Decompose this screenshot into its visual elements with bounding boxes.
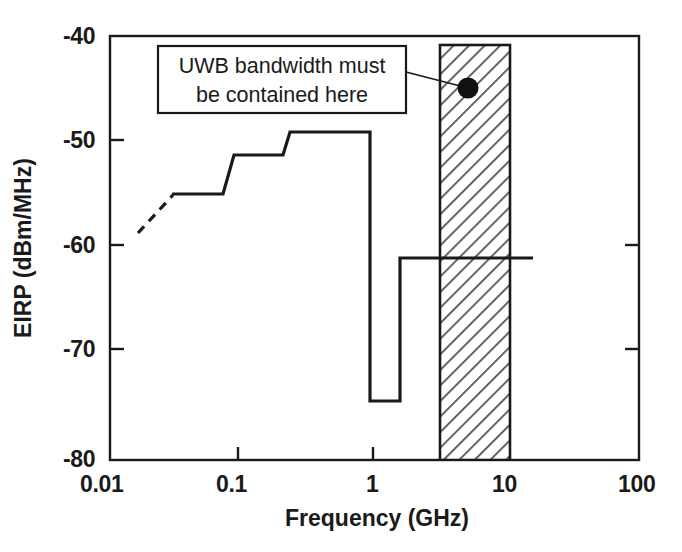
uwb-band-marker-dot [458,78,479,99]
eirp-spectral-mask-figure: EIRP (dBm/MHz) UWB bandwidth must be con… [0,0,682,552]
y-tick-label-minus70: -70 [63,336,95,363]
x-tick-label-0p1: 0.1 [216,471,247,498]
uwb-band-rect [440,45,510,460]
x-axis-title: Frequency (GHz) [285,505,469,532]
x-tick-label-100: 100 [618,471,655,498]
callout-text-block: UWB bandwidth must be contained here [160,52,404,110]
callout-line-1: UWB bandwidth must [160,52,404,81]
y-axis-title: EIRP (dBm/MHz) [10,158,36,338]
mask-dashed-extension [138,195,173,233]
callout-line-2: be contained here [160,81,404,110]
x-axis-ticks [238,245,639,460]
y-tick-label-minus80: -80 [63,446,95,473]
y-tick-label-minus50: -50 [63,127,95,154]
y-tick-label-minus40: -40 [63,23,95,50]
y-tick-label-minus60: -60 [63,232,95,259]
x-tick-label-0p01: 0.01 [80,471,124,498]
y-axis-ticks [110,140,124,349]
uwb-allowed-band [440,45,510,460]
x-tick-label-1: 1 [366,471,379,498]
x-tick-label-10: 10 [492,471,517,498]
